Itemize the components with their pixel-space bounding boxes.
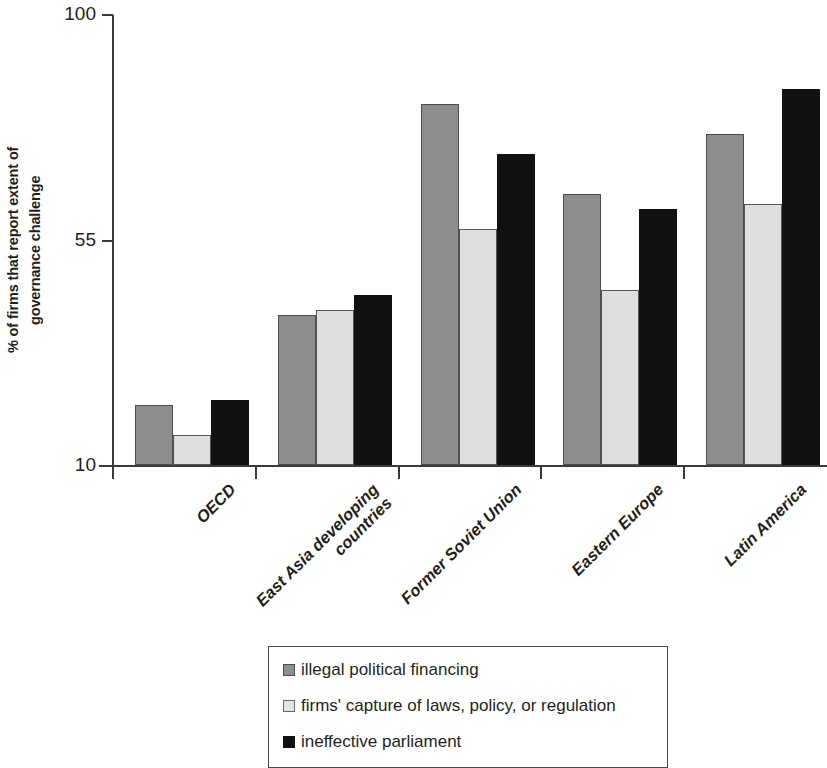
x-axis-tick xyxy=(398,465,400,479)
y-axis-tick: 100 xyxy=(102,14,113,16)
bar xyxy=(563,194,601,465)
y-axis-title: % of firms that report extent of governa… xyxy=(0,85,46,415)
bar xyxy=(601,290,639,465)
plot-area: 1055100 xyxy=(113,15,827,466)
bar xyxy=(421,104,459,465)
y-axis-title-line-2: governance challenge xyxy=(24,85,46,415)
x-axis-tick xyxy=(683,465,685,479)
legend-swatch-black-icon xyxy=(283,736,295,748)
legend-label: firms' capture of laws, policy, or regul… xyxy=(301,696,616,716)
bar xyxy=(459,229,497,465)
y-axis-tick-label: 10 xyxy=(75,454,96,476)
bar xyxy=(706,134,744,465)
chart-legend: illegal political financing firms' captu… xyxy=(268,646,668,768)
legend-item-illegal-political-financing: illegal political financing xyxy=(283,660,479,680)
bar xyxy=(211,400,249,465)
legend-label: ineffective parliament xyxy=(301,732,461,752)
y-axis-title-line-1: % of firms that report extent of xyxy=(2,85,24,415)
y-axis-tick-label: 55 xyxy=(75,229,96,251)
x-axis-tick xyxy=(112,465,114,479)
y-axis-tick-label: 100 xyxy=(64,3,96,25)
legend-item-ineffective-parliament: ineffective parliament xyxy=(283,732,461,752)
y-axis-tick: 55 xyxy=(102,240,113,242)
bar xyxy=(639,209,677,465)
legend-swatch-light-icon xyxy=(283,700,295,712)
x-axis-tick xyxy=(255,465,257,479)
x-axis-tick xyxy=(540,465,542,479)
legend-swatch-gray-icon xyxy=(283,664,295,676)
bar xyxy=(278,315,316,465)
bar xyxy=(173,435,211,465)
bar xyxy=(316,310,354,465)
bar xyxy=(782,89,820,465)
bar xyxy=(744,204,782,465)
bar xyxy=(497,154,535,465)
x-axis-line xyxy=(99,465,827,467)
bar-chart-figure: % of firms that report extent of governa… xyxy=(0,0,827,768)
legend-item-firms-capture: firms' capture of laws, policy, or regul… xyxy=(283,696,616,716)
legend-label: illegal political financing xyxy=(301,660,479,680)
bar xyxy=(354,295,392,465)
bar xyxy=(135,405,173,465)
